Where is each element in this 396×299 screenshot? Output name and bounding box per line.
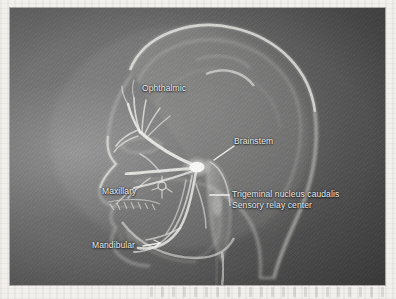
anatomical-photograph: Ophthalmic Brainstem Trigeminal nucleus … xyxy=(10,8,385,285)
photo-vignette xyxy=(10,8,385,285)
scan-artifact xyxy=(150,287,390,297)
scanned-page: Ophthalmic Brainstem Trigeminal nucleus … xyxy=(0,0,396,299)
